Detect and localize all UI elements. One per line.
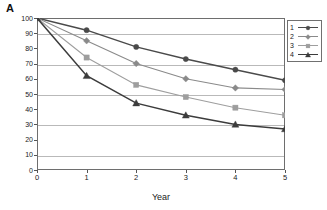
y-tick-label: 10 bbox=[13, 151, 33, 158]
x-axis-title: Year bbox=[37, 192, 285, 202]
legend: 1234 bbox=[287, 20, 322, 62]
y-tick-label: 0 bbox=[13, 167, 33, 174]
data-point bbox=[232, 85, 239, 92]
x-tick-mark bbox=[186, 170, 187, 173]
legend-item-label: 3 bbox=[290, 42, 296, 49]
data-point bbox=[84, 55, 89, 60]
x-tick-mark bbox=[37, 170, 38, 173]
legend-item-3[interactable]: 3 bbox=[290, 41, 318, 50]
x-tick-label: 3 bbox=[179, 174, 193, 182]
survival-chart-figure: A Percent Alive Year 0102030405060708090… bbox=[0, 0, 327, 210]
y-tick-label: 90 bbox=[13, 30, 33, 37]
x-tick-label: 1 bbox=[80, 174, 94, 182]
x-tick-mark bbox=[285, 170, 286, 173]
y-tick-label: 40 bbox=[13, 106, 33, 113]
legend-marker-diamond-icon bbox=[305, 34, 311, 40]
legend-marker-triangle-icon bbox=[305, 52, 311, 58]
x-tick-label: 5 bbox=[278, 174, 292, 182]
y-tick-label: 60 bbox=[13, 75, 33, 82]
data-point bbox=[134, 82, 139, 87]
data-point bbox=[183, 94, 188, 99]
legend-sample bbox=[298, 33, 318, 41]
data-point bbox=[233, 105, 238, 110]
x-tick-mark bbox=[87, 170, 88, 173]
y-tick-label: 30 bbox=[13, 121, 33, 128]
y-tick-label: 20 bbox=[13, 136, 33, 143]
series-1 bbox=[37, 18, 285, 83]
series-line bbox=[37, 18, 285, 115]
data-point bbox=[133, 100, 140, 106]
legend-sample bbox=[298, 24, 318, 32]
data-point bbox=[282, 113, 285, 118]
legend-item-4[interactable]: 4 bbox=[290, 50, 318, 59]
x-tick-label: 2 bbox=[129, 174, 143, 182]
data-point bbox=[282, 86, 285, 93]
y-tick-label: 80 bbox=[13, 45, 33, 52]
y-tick-label: 50 bbox=[13, 91, 33, 98]
data-point bbox=[233, 67, 238, 72]
legend-item-2[interactable]: 2 bbox=[290, 32, 318, 41]
data-point bbox=[183, 56, 188, 61]
series-plot bbox=[37, 18, 285, 170]
legend-sample bbox=[298, 42, 318, 50]
legend-marker-circle-icon bbox=[305, 25, 311, 31]
data-point bbox=[133, 60, 140, 67]
legend-item-label: 1 bbox=[290, 24, 296, 31]
x-tick-mark bbox=[235, 170, 236, 173]
legend-item-1[interactable]: 1 bbox=[290, 23, 318, 32]
y-tick-label: 100 bbox=[13, 15, 33, 22]
panel-label: A bbox=[6, 2, 14, 14]
y-tick-label: 70 bbox=[13, 60, 33, 67]
legend-item-label: 4 bbox=[290, 51, 296, 58]
data-point bbox=[83, 38, 90, 45]
legend-marker-square-icon bbox=[305, 43, 311, 49]
x-tick-mark bbox=[136, 170, 137, 173]
legend-item-label: 2 bbox=[290, 33, 296, 40]
series-2 bbox=[37, 18, 285, 93]
legend-sample bbox=[298, 51, 318, 59]
x-tick-label: 4 bbox=[228, 174, 242, 182]
x-tick-label: 0 bbox=[30, 174, 44, 182]
series-3 bbox=[37, 18, 285, 118]
data-point bbox=[134, 44, 139, 49]
data-point bbox=[183, 76, 190, 83]
data-point bbox=[84, 28, 89, 33]
data-point bbox=[282, 78, 285, 83]
